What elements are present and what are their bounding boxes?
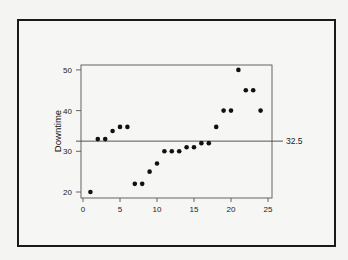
data-point <box>155 161 160 166</box>
x-tick-label: 5 <box>118 205 123 214</box>
y-axis: 20304050 <box>63 66 81 197</box>
data-point <box>229 108 234 113</box>
data-point <box>110 129 115 134</box>
data-points <box>88 68 263 195</box>
plot-area-border <box>81 65 272 198</box>
x-tick-label: 0 <box>81 205 86 214</box>
data-point <box>207 141 212 146</box>
x-tick-label: 10 <box>153 205 162 214</box>
data-point <box>162 149 167 154</box>
data-point <box>103 137 108 142</box>
x-tick-label: 25 <box>264 205 273 214</box>
run-chart: 20304050 0510152025 Downtime 32.5 <box>0 0 348 260</box>
data-point <box>118 125 123 130</box>
data-point <box>177 149 182 154</box>
data-point <box>251 88 256 93</box>
data-point <box>192 145 197 150</box>
data-point <box>214 125 219 130</box>
data-point <box>244 88 249 93</box>
data-point <box>147 169 152 174</box>
y-tick-label: 40 <box>63 107 72 116</box>
y-tick-label: 20 <box>63 188 72 197</box>
data-point <box>140 182 145 187</box>
data-point <box>236 68 241 73</box>
data-point <box>184 145 189 150</box>
data-point <box>133 182 138 187</box>
data-point <box>88 190 93 195</box>
y-axis-title: Downtime <box>52 110 63 152</box>
data-point <box>258 108 263 113</box>
x-tick-label: 20 <box>227 205 236 214</box>
data-point <box>170 149 175 154</box>
y-tick-label: 50 <box>63 66 72 75</box>
median-value-label: 32.5 <box>286 136 303 146</box>
y-tick-label: 30 <box>63 147 72 156</box>
data-point <box>221 108 226 113</box>
data-point <box>96 137 101 142</box>
x-axis: 0510152025 <box>81 198 273 214</box>
data-point <box>199 141 204 146</box>
data-point <box>125 125 130 130</box>
plot-frame <box>81 65 272 198</box>
x-tick-label: 15 <box>190 205 199 214</box>
